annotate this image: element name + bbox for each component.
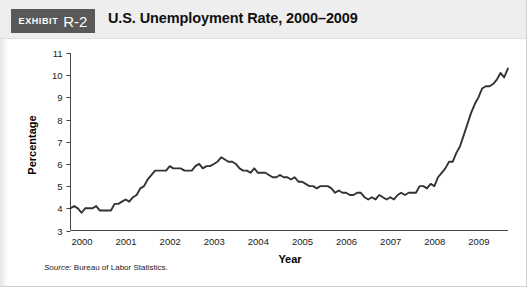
source-text: Bureau of Labor Statistics.	[74, 263, 168, 272]
x-axis-tick-label: 2002	[160, 236, 181, 247]
source-label: Source:	[44, 263, 72, 272]
x-axis-tick-label: 2000	[71, 236, 92, 247]
exhibit-figure: Exhibit R-2 U.S. Unemployment Rate, 2000…	[0, 0, 527, 287]
source-note: Source: Bureau of Labor Statistics.	[44, 263, 168, 272]
y-axis-tick-label: 8	[57, 115, 62, 126]
y-axis-tick-label: 6	[57, 159, 62, 170]
x-axis-tick-label: 2007	[380, 236, 401, 247]
y-axis-tick-label: 11	[53, 48, 63, 59]
y-axis-tick-label: 7	[57, 137, 62, 148]
y-axis-tick-label: 5	[57, 181, 62, 192]
unemployment-line-chart: 34567891011 2000200120022003200420052006…	[0, 0, 527, 287]
x-axis-tick-label: 2001	[115, 236, 136, 247]
axis-group	[71, 53, 509, 231]
x-axis-tick-label: 2009	[468, 236, 489, 247]
y-axis-tick-labels: 34567891011	[52, 48, 63, 237]
x-axis-tick-label: 2004	[248, 236, 269, 247]
y-axis-title: Percentage	[26, 115, 38, 174]
y-axis-tick-label: 3	[57, 226, 62, 237]
y-axis-tick-label: 10	[52, 70, 63, 81]
x-axis-tick-label: 2003	[204, 236, 225, 247]
x-axis-tick-labels: 2000200120022003200420052006200720082009	[71, 236, 489, 247]
x-axis-tick-label: 2008	[424, 236, 445, 247]
x-axis-title: Year	[278, 253, 302, 265]
y-axis-tick-label: 9	[57, 92, 62, 103]
y-axis-tick-label: 4	[57, 203, 62, 214]
y-axis-ticks	[67, 54, 71, 232]
x-axis-tick-label: 2005	[292, 236, 313, 247]
unemployment-rate-line	[71, 69, 508, 213]
x-axis-tick-label: 2006	[336, 236, 357, 247]
